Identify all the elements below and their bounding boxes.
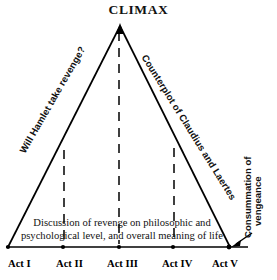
- axis-tick-dot: [117, 245, 121, 249]
- axis-tick-dot: [6, 245, 10, 249]
- apex-marker: [116, 23, 124, 34]
- axis-label-act-iv: Act IV: [162, 258, 192, 269]
- axis-label-act-iii: Act III: [107, 258, 138, 269]
- discussion-line-1: Discussion of revenge on philosophic and: [0, 216, 244, 229]
- discussion-of-revenge-label: Discussion of revenge on philosophic and…: [0, 216, 244, 243]
- axis-tick-dot: [61, 245, 65, 249]
- axis-label-act-ii: Act II: [56, 258, 83, 269]
- axis-label-act-v: Act V: [212, 258, 238, 269]
- discussion-line-2: psychological level, and overall meaning…: [0, 229, 244, 242]
- axis-tick-dot: [227, 245, 232, 250]
- consummation-of-vengeance-label: Consummation of vengeance: [243, 156, 263, 238]
- vengeance-line-2: vengeance: [253, 156, 263, 226]
- axis-tick-dot: [171, 245, 175, 249]
- climax-label: CLIMAX: [0, 3, 277, 17]
- hamlet-plot-structure-diagram: CLIMAX Will Hamlet take revenge? Counter…: [0, 0, 277, 280]
- axis-label-act-i: Act I: [8, 258, 31, 269]
- falling-action-line: [120, 26, 230, 247]
